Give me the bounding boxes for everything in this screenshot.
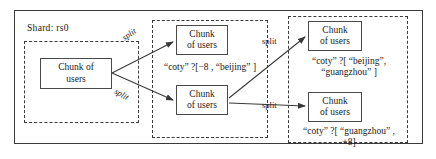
chunk-node-right-top: Chunk of users	[308, 21, 362, 51]
edge-label-split-upper-right: split	[262, 36, 277, 46]
diagram-canvas: Shard: rs0 Chunk of users Chunk of users…	[0, 0, 436, 159]
edge-label-split-lower-right: split	[262, 100, 277, 110]
chunk-node-middle-bottom: Chunk of users	[176, 85, 228, 115]
chunk-node-right-bottom: Chunk of users	[308, 92, 362, 122]
shard-label: Shard: rs0	[27, 23, 69, 33]
range-line2: +8]	[290, 137, 408, 148]
chunk-label-line1: Chunk	[322, 25, 347, 37]
chunk-label-line2: users	[66, 74, 86, 86]
chunk-label-line1: Chunk	[189, 29, 214, 41]
range-annotation-right-top: “coty” ?[ “beijing”, “guangzhou” ]	[290, 56, 408, 78]
range-line2: “guangzhou” ]	[290, 67, 408, 78]
chunk-label-line1: Chunk	[322, 96, 347, 108]
chunk-label-line2: of users	[187, 100, 217, 112]
range-line1: “coty” ?[ “guangzhou” ,	[290, 126, 408, 137]
chunk-label-line2: of users	[320, 107, 350, 119]
range-annotation-middle: “coty” ?[−8 , “beijing” ]	[150, 62, 270, 73]
chunk-label-line2: of users	[187, 40, 217, 52]
range-line1: “coty” ?[ “beijing”,	[290, 56, 408, 67]
range-annotation-right-bottom: “coty” ?[ “guangzhou” , +8]	[290, 126, 408, 148]
chunk-label-line2: of users	[320, 36, 350, 48]
chunk-node-middle-top: Chunk of users	[176, 25, 228, 55]
chunk-label-line1: Chunk	[189, 89, 214, 101]
chunk-label-line1: Chunk of	[58, 62, 94, 74]
chunk-node-initial: Chunk of users	[40, 58, 112, 89]
